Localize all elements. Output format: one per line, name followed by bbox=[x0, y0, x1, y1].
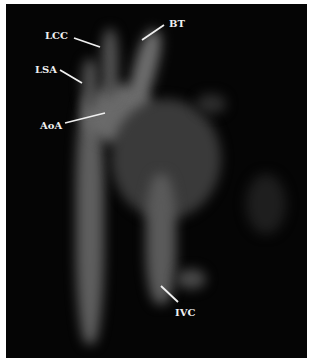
label-ivc: IVC bbox=[175, 307, 195, 318]
figure-frame: LCC BT LSA AoA IVC bbox=[0, 0, 313, 363]
label-aoa: AoA bbox=[40, 120, 62, 131]
label-lsa: LSA bbox=[35, 64, 57, 75]
label-lcc: LCC bbox=[45, 30, 68, 41]
angiography-image: LCC BT LSA AoA IVC bbox=[6, 4, 307, 358]
label-pointer-lines bbox=[6, 4, 307, 358]
label-bt: BT bbox=[169, 18, 185, 29]
